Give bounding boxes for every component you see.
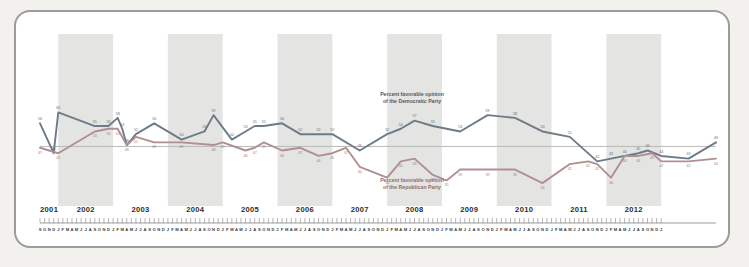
- month-axis: SONDJFMAMJJASONDJFMAMJJASONDJFMAMJJASOND…: [39, 218, 716, 232]
- month-label: J: [80, 227, 82, 232]
- year-label-2012: 2012: [625, 205, 643, 214]
- month-label: D: [52, 227, 55, 232]
- data-label: 44: [623, 150, 627, 154]
- month-label: J: [85, 227, 87, 232]
- month-label: M: [449, 227, 453, 232]
- month-label: J: [660, 227, 662, 232]
- year-label-2009: 2009: [460, 205, 478, 214]
- data-label: 46: [280, 154, 284, 158]
- month-label: A: [472, 227, 475, 232]
- month-label: N: [267, 227, 270, 232]
- month-label: O: [427, 227, 431, 232]
- data-label: 48: [125, 148, 129, 152]
- data-label: 43: [609, 152, 613, 156]
- month-label: O: [591, 227, 595, 232]
- data-label: 59: [212, 109, 216, 113]
- data-label: 49: [262, 145, 266, 149]
- month-label: A: [89, 227, 92, 232]
- data-label: 55: [253, 120, 257, 124]
- month-label: S: [367, 227, 370, 232]
- data-label: 45: [52, 147, 56, 151]
- year-label-2001: 2001: [40, 205, 59, 214]
- year-label-2003: 2003: [131, 205, 149, 214]
- data-label: 42: [687, 164, 691, 168]
- data-label: 54: [120, 123, 124, 127]
- data-label: 58: [116, 112, 120, 116]
- month-label: J: [190, 227, 192, 232]
- year-band-2002: [58, 34, 113, 206]
- month-label: J: [331, 227, 333, 232]
- data-label: 58: [513, 112, 517, 116]
- data-label: 56: [38, 117, 42, 121]
- month-label: A: [509, 227, 512, 232]
- month-label: J: [496, 227, 498, 232]
- month-label: D: [162, 227, 165, 232]
- data-label: 39: [513, 173, 517, 177]
- month-label: J: [633, 227, 635, 232]
- data-label: 49: [714, 136, 718, 140]
- data-label: 45: [650, 156, 654, 160]
- data-label: 53: [540, 125, 544, 129]
- month-label: J: [550, 227, 552, 232]
- data-label: 48: [212, 148, 216, 152]
- month-label: N: [322, 227, 325, 232]
- data-label: 36: [609, 181, 613, 185]
- month-label: O: [481, 227, 485, 232]
- month-label: M: [239, 227, 243, 232]
- month-label: O: [536, 227, 540, 232]
- month-label: M: [404, 227, 408, 232]
- month-label: N: [48, 227, 51, 232]
- data-label: 60: [56, 106, 60, 110]
- year-band-2006: [278, 34, 333, 206]
- month-label: D: [381, 227, 384, 232]
- data-label: 40: [358, 170, 362, 174]
- data-label: 52: [317, 128, 321, 132]
- data-label: 56: [280, 117, 284, 121]
- month-label: D: [326, 227, 329, 232]
- favorability-line-chart: 5645605555585448525650535950535555565252…: [16, 12, 732, 250]
- data-label: 46: [358, 144, 362, 148]
- month-label: F: [116, 227, 119, 232]
- month-label: A: [144, 227, 147, 232]
- month-label: J: [276, 227, 278, 232]
- month-label: A: [637, 227, 640, 232]
- month-label: O: [43, 227, 47, 232]
- data-label: 49: [180, 145, 184, 149]
- data-label: 47: [38, 151, 42, 155]
- month-label: O: [207, 227, 211, 232]
- month-label: J: [628, 227, 630, 232]
- data-label: 42: [659, 164, 663, 168]
- month-label: F: [171, 227, 174, 232]
- data-label: 55: [431, 120, 435, 124]
- month-label: A: [527, 227, 530, 232]
- month-label: M: [395, 227, 399, 232]
- month-label: J: [386, 227, 388, 232]
- month-label: D: [491, 227, 494, 232]
- month-label: S: [203, 227, 206, 232]
- year-shading-bands: [58, 34, 661, 206]
- data-label: 42: [595, 155, 599, 159]
- month-label: M: [184, 227, 188, 232]
- month-label: O: [646, 227, 650, 232]
- month-label: A: [70, 227, 73, 232]
- month-label: J: [573, 227, 575, 232]
- month-label: J: [299, 227, 301, 232]
- data-label: 46: [244, 154, 248, 158]
- month-label: J: [354, 227, 356, 232]
- month-label: M: [504, 227, 508, 232]
- data-label: 41: [595, 167, 599, 171]
- data-label: 51: [568, 131, 572, 135]
- year-label-2002: 2002: [77, 205, 95, 214]
- data-label: 44: [623, 159, 627, 163]
- annotation-rep-line2: of the Republican Party: [383, 184, 441, 190]
- data-label: 53: [202, 125, 206, 129]
- data-label: 53: [93, 134, 97, 138]
- month-label: A: [345, 227, 348, 232]
- data-label: 55: [262, 120, 266, 124]
- data-label: 47: [344, 151, 348, 155]
- month-label: A: [253, 227, 256, 232]
- data-label: 49: [221, 145, 225, 149]
- month-label: A: [180, 227, 183, 232]
- month-label: J: [139, 227, 141, 232]
- month-label: D: [107, 227, 110, 232]
